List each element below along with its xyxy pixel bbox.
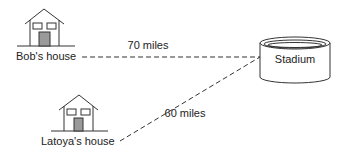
bob-distance-label: 70 miles (128, 39, 169, 51)
diagram-canvas: Bob's house 70 miles Stadium Latoya's ho… (0, 0, 347, 155)
latoya-distance-label: 60 miles (165, 107, 206, 119)
bob-house-icon (17, 9, 75, 46)
latoya-house-label: Latoya's house (41, 135, 115, 147)
bob-house-label: Bob's house (16, 50, 76, 62)
stadium-label: Stadium (275, 53, 315, 65)
latoya-to-stadium-line (120, 57, 260, 141)
latoya-house-icon (51, 95, 108, 131)
